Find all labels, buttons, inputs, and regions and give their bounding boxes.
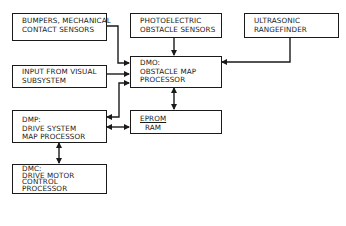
node-dmp: DMP: DRIVE SYSTEM MAP PROCESSOR [12,110,107,143]
node-label: RAM [140,124,221,133]
node-label: CONTACT SENSORS [22,26,106,35]
node-ultrasonic: ULTRASONIC RANGEFINDER [244,13,339,38]
node-bumpers: BUMPERS, MECHANICAL CONTACT SENSORS [12,13,107,41]
node-photoelectric: PHOTOELECTRIC OBSTACLE SENSORS [130,13,222,38]
node-label: PROCESSOR [22,186,106,193]
node-dmo: DMO: OBSTACLE MAP PROCESSOR [130,56,222,88]
node-label: PROCESSOR [140,76,221,85]
arrow-ultrasonic-to-dmo [222,37,290,62]
arrow-dmo-dmp [107,83,129,117]
node-visual-input: INPUT FROM VISUAL SUBSYSTEM [12,65,107,88]
node-label: SUBSYSTEM [22,77,106,86]
arrow-bumpers-to-dmo [106,26,129,63]
node-memory: EPROM RAM [130,110,222,134]
node-dmc: DMC: DRIVE MOTOR CONTROL PROCESSOR [12,164,107,194]
node-label: RANGEFINDER [254,26,338,35]
node-label: MAP PROCESSOR [22,133,106,142]
node-label: OBSTACLE SENSORS [140,26,221,35]
